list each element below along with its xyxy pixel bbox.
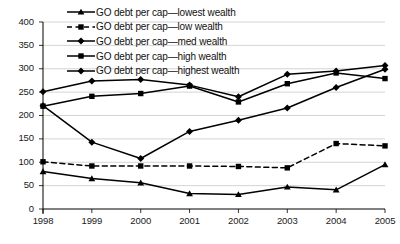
- y-tick-label: 400: [6, 16, 34, 27]
- y-tick-label: 250: [6, 86, 34, 97]
- legend-label: GO debt per cap—med wealth: [96, 36, 227, 47]
- data-point-marker: [235, 117, 242, 124]
- data-point-marker: [137, 155, 144, 162]
- data-point-marker: [236, 164, 241, 169]
- data-point-marker: [284, 105, 291, 112]
- data-point-marker: [40, 159, 45, 164]
- data-point-marker: [39, 88, 46, 95]
- x-tick-label: 2005: [365, 215, 400, 226]
- data-point-marker: [285, 165, 290, 170]
- series-1: [40, 141, 387, 171]
- data-point-marker: [187, 163, 192, 168]
- y-tick-label: 50: [6, 179, 34, 190]
- legend-label: GO debt per cap—lowest wealth: [96, 7, 236, 18]
- y-tick-label: 150: [6, 132, 34, 143]
- x-tick-label: 2004: [316, 215, 356, 226]
- y-tick-label: 300: [6, 62, 34, 73]
- legend-item-2[interactable]: GO debt per cap—med wealth: [66, 34, 316, 49]
- data-point-marker: [285, 81, 290, 86]
- x-tick-label: 2002: [218, 215, 258, 226]
- legend-marker-icon: [66, 65, 96, 77]
- legend-item-0[interactable]: GO debt per cap—lowest wealth: [66, 5, 316, 20]
- legend-label: GO debt per cap—high wealth: [96, 51, 226, 62]
- x-tick-label: 2000: [121, 215, 161, 226]
- data-point-marker: [138, 91, 143, 96]
- data-point-marker: [78, 24, 83, 29]
- y-tick-label: 350: [6, 39, 34, 50]
- y-tick-label: 0: [6, 203, 34, 214]
- data-point-marker: [89, 94, 94, 99]
- legend-label: GO debt per cap—highest wealth: [96, 65, 239, 76]
- data-point-marker: [89, 163, 94, 168]
- y-tick-label: 200: [6, 109, 34, 120]
- x-tick-label: 1999: [72, 215, 112, 226]
- data-point-marker: [382, 76, 387, 81]
- legend-item-3[interactable]: GO debt per cap—high wealth: [66, 49, 316, 64]
- x-tick-label: 2001: [170, 215, 210, 226]
- legend-item-4[interactable]: GO debt per cap—highest wealth: [66, 63, 316, 78]
- chart-legend: GO debt per cap—lowest wealthGO debt per…: [66, 5, 316, 78]
- data-point-marker: [381, 62, 388, 69]
- legend-item-1[interactable]: GO debt per cap—low wealth: [66, 20, 316, 35]
- legend-label: GO debt per cap—low wealth: [96, 21, 223, 32]
- data-point-marker: [40, 103, 45, 108]
- data-point-marker: [382, 143, 387, 148]
- data-point-marker: [77, 38, 84, 45]
- data-point-marker: [78, 53, 83, 58]
- data-point-marker: [186, 128, 193, 135]
- x-tick-label: 1998: [23, 215, 63, 226]
- data-point-marker: [138, 163, 143, 168]
- legend-marker-icon: [66, 35, 96, 47]
- legend-marker-icon: [66, 50, 96, 62]
- data-point-marker: [88, 77, 95, 84]
- data-point-marker: [333, 141, 338, 146]
- y-tick-label: 100: [6, 156, 34, 167]
- data-point-marker: [333, 84, 340, 91]
- data-point-marker: [77, 67, 84, 74]
- legend-marker-icon: [66, 21, 96, 33]
- x-tick-label: 2003: [267, 215, 307, 226]
- legend-marker-icon: [66, 6, 96, 18]
